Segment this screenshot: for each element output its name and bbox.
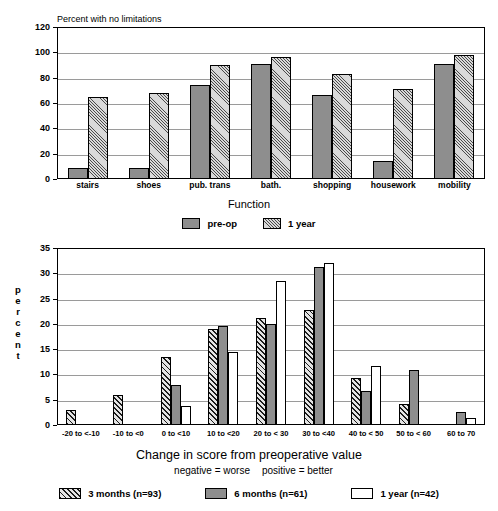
chart1-legend: pre-op1 year [0, 218, 498, 229]
y-tick-mark [53, 78, 57, 79]
legend-label: 1 year [288, 218, 315, 229]
bar [434, 64, 454, 179]
y-tick-label: 0 [10, 175, 50, 184]
y-tick-mark [53, 374, 57, 375]
bar [324, 263, 334, 425]
legend-label: 1 year (n=42) [380, 488, 438, 499]
bar [373, 161, 393, 179]
bar [210, 65, 230, 179]
bar [256, 318, 266, 425]
y-tick-mark [53, 400, 57, 401]
chart2-x-axis-title: Change in score from preoperative value [0, 448, 498, 462]
legend-swatch [182, 218, 200, 229]
bar [161, 357, 171, 425]
chart2-legend: 3 months (n=93)6 months (n=61)1 year (n=… [0, 488, 498, 499]
legend-item: 6 months (n=61) [205, 488, 307, 499]
legend-label: pre-op [207, 218, 237, 229]
y-tick-label: 35 [10, 244, 50, 253]
bar [361, 391, 371, 425]
y-tick-label: 40 [10, 124, 50, 133]
bar [171, 385, 181, 425]
bar [88, 97, 108, 179]
y-tick-label: 20 [10, 320, 50, 329]
bar [129, 168, 149, 179]
y-axis-title-letter: e [12, 328, 24, 339]
y-tick-label: 0 [10, 421, 50, 430]
y-tick-mark [53, 103, 57, 104]
y-tick-mark [53, 128, 57, 129]
chart2-note-positive: positive = better [262, 466, 462, 476]
chart1-x-axis-title: Function [0, 198, 498, 211]
bar [314, 267, 324, 425]
bar [181, 406, 191, 425]
legend-item: 1 year (n=42) [351, 488, 438, 499]
chart1-title: Percent with no limitations [57, 15, 162, 24]
y-tick-label: 60 [10, 99, 50, 108]
x-tick-label: mobility [418, 181, 491, 190]
y-tick-mark [53, 27, 57, 28]
y-tick-label: 80 [10, 74, 50, 83]
y-tick-label: 100 [10, 48, 50, 57]
y-tick-mark [53, 179, 57, 180]
bar [456, 412, 466, 425]
x-tick-label: 60 to 70 [431, 430, 491, 438]
y-tick-label: 120 [10, 23, 50, 32]
y-axis-title-letter: r [12, 306, 24, 317]
bar [304, 310, 314, 425]
bar [454, 55, 474, 179]
bar [149, 93, 169, 179]
legend-item: pre-op [182, 218, 237, 229]
bar [66, 410, 76, 425]
gridline [58, 300, 484, 301]
y-tick-mark [53, 273, 57, 274]
y-tick-mark [53, 299, 57, 300]
y-tick-mark [53, 52, 57, 53]
bar [393, 89, 413, 179]
y-tick-label: 20 [10, 150, 50, 159]
bar [371, 366, 381, 425]
bar [351, 378, 361, 425]
y-axis-title-letter: p [12, 284, 24, 295]
y-tick-mark [53, 349, 57, 350]
bar [266, 324, 276, 425]
y-tick-mark [53, 248, 57, 249]
chart-percent-no-limitations: Percent with no limitations 020406080100… [0, 0, 498, 240]
bar [271, 57, 291, 179]
legend-item: 3 months (n=93) [59, 488, 161, 499]
legend-label: 6 months (n=61) [234, 488, 307, 499]
bar [312, 95, 332, 179]
bar [68, 168, 88, 179]
chart-change-in-score: percent 05101520253035 -20 to <-10-10 to… [0, 240, 498, 511]
legend-swatch [205, 488, 227, 499]
bar [208, 329, 218, 425]
y-tick-mark [53, 324, 57, 325]
y-tick-label: 25 [10, 295, 50, 304]
bar [228, 352, 238, 425]
bar [276, 281, 286, 425]
y-tick-label: 15 [10, 345, 50, 354]
legend-swatch [263, 218, 281, 229]
y-tick-mark [53, 154, 57, 155]
legend-swatch [351, 488, 373, 499]
bar [409, 370, 419, 425]
chart2-note-negative: negative = worse [0, 466, 250, 476]
y-tick-label: 30 [10, 269, 50, 278]
legend-label: 3 months (n=93) [88, 488, 161, 499]
bar [332, 74, 352, 179]
bar [113, 395, 123, 425]
bar [466, 418, 476, 425]
bar [218, 326, 228, 425]
gridline [58, 53, 484, 54]
gridline [58, 274, 484, 275]
y-tick-label: 5 [10, 396, 50, 405]
y-tick-label: 10 [10, 370, 50, 379]
legend-item: 1 year [263, 218, 315, 229]
bar [399, 404, 409, 425]
legend-swatch [59, 488, 81, 499]
y-tick-mark [53, 425, 57, 426]
bar [251, 64, 271, 179]
bar [190, 85, 210, 179]
